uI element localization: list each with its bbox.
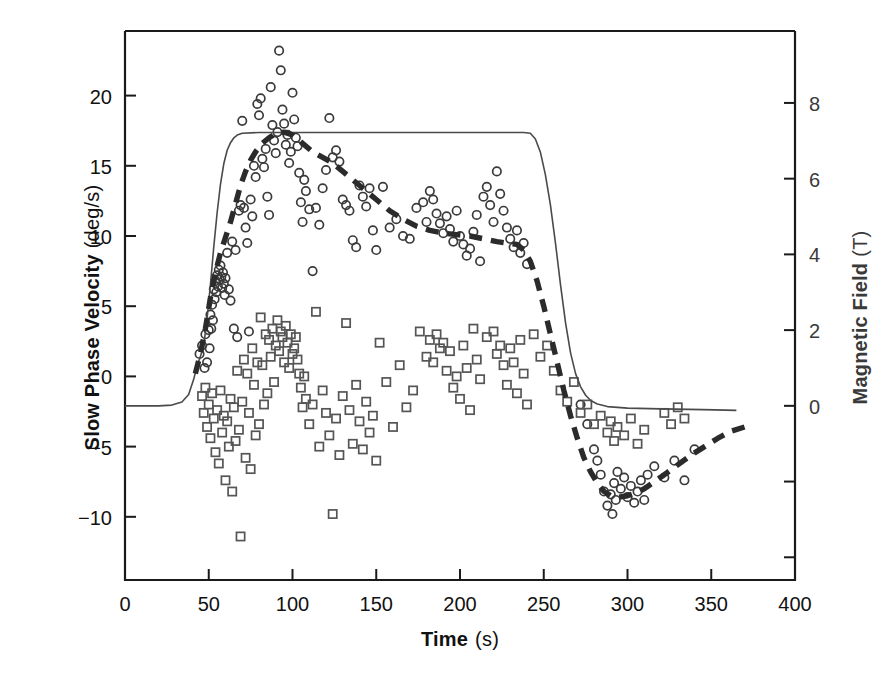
data-point-circle [230, 324, 238, 332]
data-point-circle [372, 246, 380, 254]
data-point-square [335, 451, 343, 459]
data-point-circle [315, 221, 323, 229]
data-point-circle [597, 470, 605, 478]
data-point-circle [503, 223, 511, 231]
data-point-square [300, 372, 308, 380]
plot-frame [125, 31, 795, 580]
data-point-square [236, 532, 244, 540]
x-axis-title-main: Time [421, 628, 468, 650]
data-point-circle [298, 218, 306, 226]
data-point-circle [493, 167, 501, 175]
data-point-circle [325, 114, 333, 122]
data-point-square [570, 378, 578, 386]
data-point-circle [432, 209, 440, 217]
data-point-square [238, 398, 246, 406]
data-point-circle [359, 192, 367, 200]
data-point-square [292, 333, 300, 341]
data-point-circle [285, 159, 293, 167]
data-point-square [536, 353, 544, 361]
data-point-square [577, 409, 585, 417]
data-point-square [640, 426, 648, 434]
data-point-square [298, 403, 306, 411]
data-point-circle [258, 155, 266, 163]
data-point-square [597, 412, 605, 420]
data-point-circle [436, 219, 444, 227]
data-point-square [218, 428, 226, 436]
data-point-circle [246, 195, 254, 203]
data-point-circle [466, 244, 474, 252]
svg-text:300: 300 [611, 593, 644, 615]
data-point-square [355, 417, 363, 425]
data-point-circle [241, 223, 249, 231]
data-point-square [253, 358, 261, 366]
data-point-square [240, 355, 248, 363]
data-point-square [325, 431, 333, 439]
y-axis-right-title: Magnetic Field(T) [849, 108, 872, 528]
data-point-circle [272, 149, 280, 157]
data-point-circle [603, 501, 611, 509]
data-point-circle [499, 207, 507, 215]
data-point-circle [608, 510, 616, 518]
data-point-square [206, 434, 214, 442]
data-point-square [250, 381, 258, 389]
data-point-square [516, 336, 524, 344]
data-point-square [255, 420, 263, 428]
data-point-circle [263, 192, 271, 200]
data-point-circle [300, 176, 308, 184]
data-point-circle [332, 146, 340, 154]
data-point-square [349, 440, 357, 448]
data-point-square [287, 330, 295, 338]
data-point-square [293, 355, 301, 363]
data-point-square [345, 406, 353, 414]
data-point-circle [426, 187, 434, 195]
data-point-square [211, 448, 219, 456]
data-point-square [329, 510, 337, 518]
data-point-square [233, 367, 241, 375]
data-point-circle [612, 496, 620, 504]
data-point-square [620, 431, 628, 439]
data-point-square [305, 420, 313, 428]
data-point-circle [650, 462, 658, 470]
data-point-circle [593, 456, 601, 464]
data-point-square [376, 339, 384, 347]
data-point-square [221, 476, 229, 484]
data-point-circle [365, 184, 373, 192]
data-point-circle [369, 226, 377, 234]
data-point-circle [489, 218, 497, 226]
data-point-square [258, 361, 266, 369]
data-point-square [389, 423, 397, 431]
data-point-square [270, 378, 278, 386]
data-point-square [297, 384, 305, 392]
data-point-square [257, 313, 265, 321]
axis-tick-labels: 050100150200250300350400−10−505101520024… [78, 86, 820, 615]
data-point-square [510, 358, 518, 366]
data-point-square [267, 353, 275, 361]
data-point-square [372, 457, 380, 465]
svg-text:50: 50 [198, 593, 220, 615]
data-point-square [235, 426, 243, 434]
data-point-square [667, 420, 675, 428]
data-point-circle [262, 145, 270, 153]
data-point-square [342, 319, 350, 327]
svg-text:8: 8 [809, 93, 820, 115]
data-point-square [402, 403, 410, 411]
axis-ticks [125, 96, 795, 580]
data-point-circle [248, 212, 256, 220]
data-point-square [352, 381, 360, 389]
data-point-square [263, 389, 271, 397]
data-point-square [362, 398, 370, 406]
svg-text:0: 0 [809, 396, 820, 418]
data-point-square [453, 372, 461, 380]
data-point-circle [308, 267, 316, 275]
svg-text:200: 200 [443, 593, 476, 615]
y-axis-right-title-main: Magnetic Field [849, 263, 871, 405]
svg-text:100: 100 [276, 593, 309, 615]
data-point-circle [352, 243, 360, 251]
data-point-circle [643, 470, 651, 478]
figure-container: 050100150200250300350400−10−505101520024… [0, 0, 890, 692]
data-point-circle [640, 496, 648, 504]
data-point-square [603, 428, 611, 436]
data-point-circle [250, 162, 258, 170]
data-point-circle [479, 192, 487, 200]
data-point-square [463, 364, 471, 372]
